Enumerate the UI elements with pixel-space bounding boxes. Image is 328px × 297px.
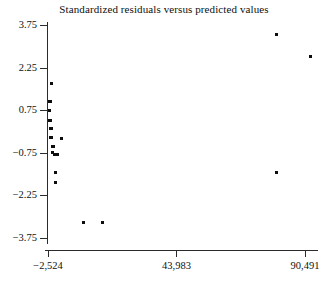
data-point (54, 171, 57, 174)
data-point (49, 119, 52, 122)
y-axis-tick-label: 0.75 (0, 105, 37, 115)
x-axis-tick-label: −2,524 (13, 260, 83, 271)
y-axis-tick-label: −2.25 (0, 190, 37, 200)
scatter-plot-figure: Standardized residuals versus predicted … (0, 0, 328, 297)
y-axis-tick (40, 153, 47, 154)
x-axis-tick (305, 250, 306, 257)
x-axis-line (45, 250, 318, 251)
data-point (101, 221, 104, 224)
data-point (275, 33, 278, 36)
y-axis-tick-label: 3.75 (0, 20, 37, 30)
y-axis-tick-label: −0.75 (0, 148, 37, 158)
data-point (50, 127, 53, 130)
data-point (275, 171, 278, 174)
data-point (52, 145, 55, 148)
data-point (48, 109, 51, 112)
data-point (50, 82, 53, 85)
data-point (56, 153, 59, 156)
data-point (49, 100, 52, 103)
y-axis-tick-label: −3.75 (0, 233, 37, 243)
plot-area (48, 25, 305, 238)
data-point (309, 55, 312, 58)
chart-title: Standardized residuals versus predicted … (0, 3, 328, 15)
data-point (50, 136, 53, 139)
x-axis-tick (176, 250, 177, 257)
y-axis-tick (40, 110, 47, 111)
x-axis-tick-label: 43,983 (141, 260, 211, 271)
data-point (60, 137, 63, 140)
y-axis-tick (40, 25, 47, 26)
x-axis-tick-label: 90,491 (270, 260, 328, 271)
y-axis-tick-label: 2.25 (0, 63, 37, 73)
data-point (82, 221, 85, 224)
y-axis-tick (40, 195, 47, 196)
x-axis-tick (48, 250, 49, 257)
y-axis-tick (40, 68, 47, 69)
y-axis-tick (40, 238, 47, 239)
data-point (54, 181, 57, 184)
